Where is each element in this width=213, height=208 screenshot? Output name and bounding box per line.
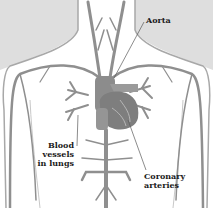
diagram-canvas: Aorta Blood vessels in lungs Coronary ar… xyxy=(0,0,213,208)
background-shading-right xyxy=(135,0,213,70)
heart xyxy=(95,76,138,130)
label-blood-vessels-in-lungs: Blood vessels in lungs xyxy=(18,141,74,168)
background-shading-left xyxy=(0,0,78,70)
label-coronary-arteries: Coronary arteries xyxy=(144,172,185,190)
label-aorta: Aorta xyxy=(146,16,171,25)
leader-lungs xyxy=(77,115,78,146)
leader-coronary xyxy=(128,120,146,170)
neck-vessels xyxy=(88,2,124,78)
arm-line-right xyxy=(173,100,183,208)
descending-aorta xyxy=(82,130,132,208)
